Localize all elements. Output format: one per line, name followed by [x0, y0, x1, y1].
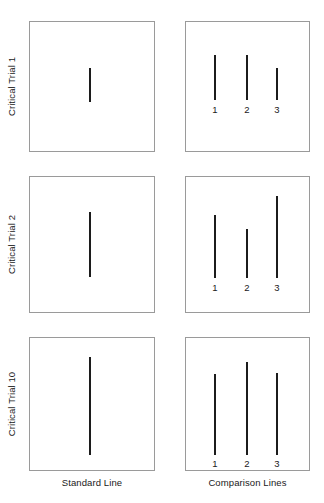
comparison-line-1-2[interactable]: [246, 55, 248, 100]
standard-line-panel-3: [29, 337, 155, 471]
standard-line-caption: Standard Line: [29, 477, 155, 488]
comparison-line-number-2-2: 2: [240, 282, 254, 293]
comparison-line-number-3-1: 1: [208, 458, 222, 469]
comparison-line-number-3-2: 2: [240, 458, 254, 469]
comparison-line-number-2-1: 1: [208, 282, 222, 293]
standard-line-1: [89, 68, 91, 102]
standard-line-3: [89, 357, 91, 455]
comparison-line-number-3-3: 3: [270, 458, 284, 469]
comparison-line-2-2[interactable]: [246, 229, 248, 278]
standard-line-panel-1: [29, 21, 155, 152]
comparison-line-number-1-3: 3: [270, 104, 284, 115]
comparison-line-1-1[interactable]: [214, 55, 216, 100]
comparison-line-1-3[interactable]: [276, 68, 278, 100]
standard-line-2: [89, 212, 91, 277]
asch-line-judgment-figure: Critical Trial 1123Critical Trial 2123Cr…: [0, 0, 324, 503]
trial-label-3: Critical Trial 10: [6, 337, 17, 471]
standard-line-panel-2: [29, 176, 155, 313]
comparison-line-3-2[interactable]: [246, 362, 248, 455]
comparison-line-number-1-1: 1: [208, 104, 222, 115]
comparison-line-2-1[interactable]: [214, 215, 216, 278]
comparison-line-number-1-2: 2: [240, 104, 254, 115]
trial-label-2: Critical Trial 2: [6, 176, 17, 313]
comparison-lines-caption: Comparison Lines: [185, 477, 310, 488]
comparison-line-2-3[interactable]: [276, 196, 278, 278]
comparison-line-3-1[interactable]: [214, 374, 216, 455]
comparison-line-number-2-3: 3: [270, 282, 284, 293]
trial-label-1: Critical Trial 1: [6, 21, 17, 152]
comparison-line-3-3[interactable]: [276, 373, 278, 455]
